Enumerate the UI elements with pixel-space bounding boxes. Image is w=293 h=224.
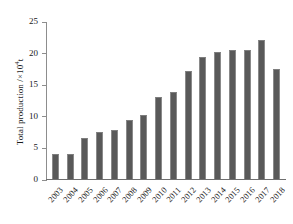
- bar-slot: [63, 22, 78, 179]
- x-label-slot: 2015: [225, 183, 240, 223]
- bar-slot: [181, 22, 196, 179]
- x-label-slot: 2016: [240, 183, 255, 223]
- bar-series: [46, 22, 286, 179]
- bar-chart: Total production /×104t 0510152025 20032…: [0, 0, 293, 224]
- y-axis-tick-label: 10: [16, 112, 38, 121]
- x-label-slot: 2004: [63, 183, 78, 223]
- bar-slot: [196, 22, 211, 179]
- bar-slot: [92, 22, 107, 179]
- bar[interactable]: [199, 57, 206, 179]
- x-label-slot: 2013: [196, 183, 211, 223]
- bar-slot: [255, 22, 270, 179]
- bar-slot: [48, 22, 63, 179]
- bar[interactable]: [81, 138, 88, 179]
- y-axis-tick-mark: [42, 180, 47, 181]
- bar-slot: [122, 22, 137, 179]
- bar[interactable]: [96, 132, 103, 179]
- x-label-slot: 2009: [137, 183, 152, 223]
- bar-slot: [151, 22, 166, 179]
- bar[interactable]: [126, 120, 133, 179]
- bar[interactable]: [273, 69, 280, 179]
- x-label-slot: 2007: [107, 183, 122, 223]
- bar[interactable]: [244, 50, 251, 179]
- bar-slot: [166, 22, 181, 179]
- x-label-slot: 2008: [122, 183, 137, 223]
- y-axis-unit-base: ×10: [15, 65, 25, 79]
- bar[interactable]: [214, 52, 221, 179]
- y-axis-tick-label: 25: [16, 17, 38, 26]
- bar[interactable]: [229, 50, 236, 179]
- bar[interactable]: [111, 130, 118, 179]
- y-axis-tick-label: 0: [16, 175, 38, 184]
- x-label-slot: 2011: [166, 183, 181, 223]
- bar[interactable]: [258, 40, 265, 179]
- bar[interactable]: [155, 97, 162, 179]
- y-axis-tick-label: 20: [16, 49, 38, 58]
- x-label-slot: 2012: [181, 183, 196, 223]
- y-axis-tick-label: 5: [16, 143, 38, 152]
- y-axis-tick-label: 15: [16, 80, 38, 89]
- plot-area: 0510152025: [46, 22, 286, 180]
- x-label-slot: 2003: [48, 183, 63, 223]
- bar[interactable]: [67, 154, 74, 179]
- x-label-slot: 2017: [255, 183, 270, 223]
- x-label-slot: 2010: [151, 183, 166, 223]
- x-axis-line: [46, 179, 286, 180]
- bar-slot: [78, 22, 93, 179]
- bar[interactable]: [170, 92, 177, 179]
- bar[interactable]: [185, 71, 192, 179]
- x-label-slot: 2005: [78, 183, 93, 223]
- x-axis-tick-labels: 2003200420052006200720082009201020112012…: [46, 183, 286, 223]
- y-axis-unit-tail: t: [15, 59, 25, 62]
- bar-slot: [210, 22, 225, 179]
- bar[interactable]: [52, 154, 59, 179]
- x-label-slot: 2006: [92, 183, 107, 223]
- bar-slot: [269, 22, 284, 179]
- bar[interactable]: [140, 115, 147, 179]
- bar-slot: [240, 22, 255, 179]
- x-label-slot: 2014: [210, 183, 225, 223]
- x-axis-tick-label: 2018: [268, 185, 287, 204]
- bar-slot: [225, 22, 240, 179]
- x-label-slot: 2018: [269, 183, 284, 223]
- bar-slot: [137, 22, 152, 179]
- y-axis-unit-exponent: 4: [13, 61, 20, 64]
- bar-slot: [107, 22, 122, 179]
